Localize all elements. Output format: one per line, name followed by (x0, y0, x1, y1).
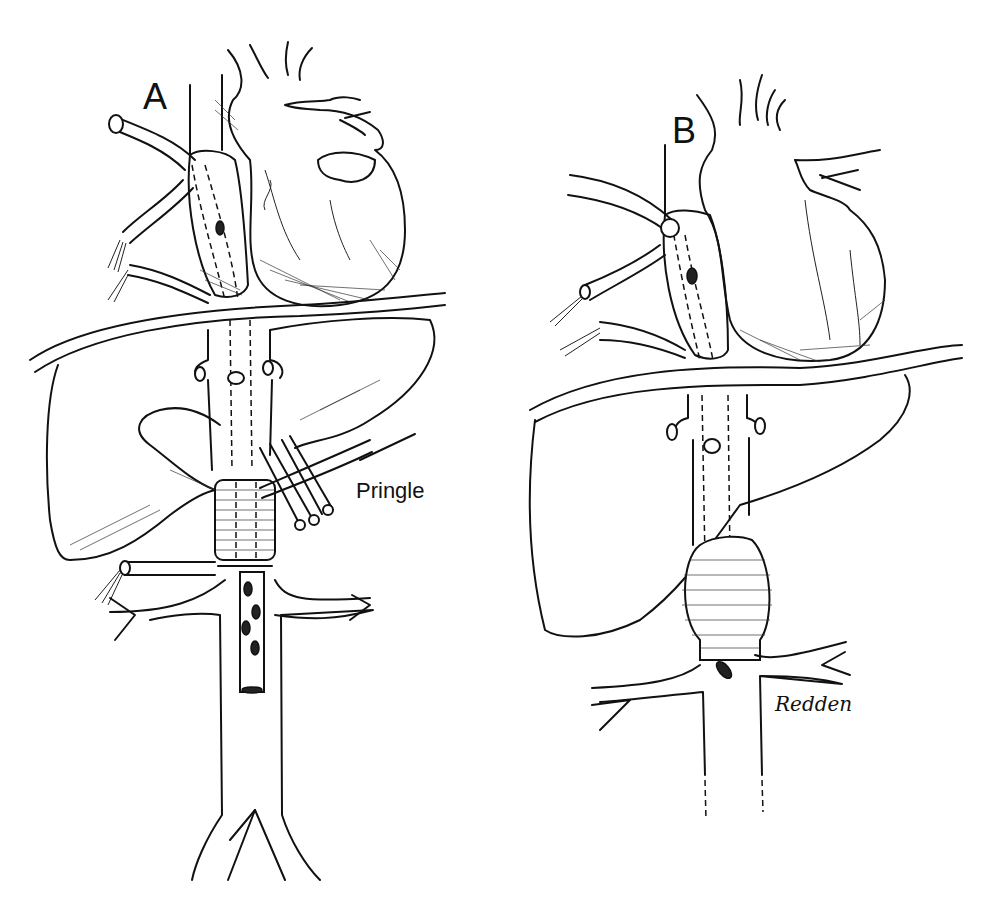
panel-a (30, 42, 445, 880)
panel-label-a: A (143, 76, 167, 118)
panel-label-b: B (672, 110, 696, 152)
ivc-b (667, 395, 765, 560)
panel-b (530, 75, 962, 820)
right-atrium-a (189, 75, 248, 300)
heart-b (697, 75, 885, 362)
diaphragm-a (30, 293, 445, 372)
aneurysm-b (682, 537, 772, 681)
pringle-annotation: Pringle (356, 478, 424, 504)
cannula-svc-a (108, 115, 210, 303)
ivc-a (195, 320, 282, 566)
artist-signature: Redden (775, 692, 852, 716)
right-atrium-b (664, 145, 728, 360)
infrarenal-vessel-a (110, 572, 373, 880)
heart-a (228, 42, 405, 306)
illustration-canvas (0, 0, 994, 912)
